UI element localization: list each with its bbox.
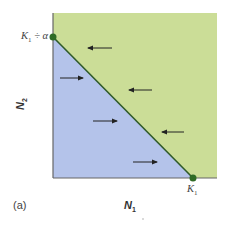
x-intercept-point — [190, 175, 197, 182]
stray-dot — [142, 218, 143, 219]
x-intercept-label: K1 — [187, 183, 198, 197]
y-intercept-point — [50, 34, 57, 41]
panel-label: (a) — [13, 199, 26, 211]
y-axis-label: N2 — [14, 98, 28, 110]
x-axis-label: N1 — [124, 199, 136, 213]
y-intercept-label: K1 ÷ α — [21, 30, 48, 44]
